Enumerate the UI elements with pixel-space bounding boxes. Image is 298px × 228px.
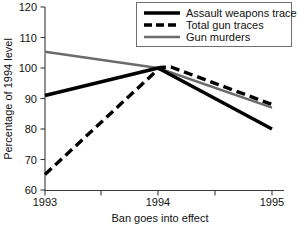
x-tick-label: 1995 [260, 196, 284, 208]
chart-legend: Assault weapons traces Total gun traces … [137, 3, 298, 47]
legend-label: Gun murders [186, 31, 251, 43]
series-line-total-gun-traces [45, 67, 272, 175]
x-tick-labels: 1993 1994 1995 [33, 196, 284, 208]
y-tick-label: 70 [25, 154, 37, 166]
y-tick-label: 90 [25, 93, 37, 105]
y-tick-labels: 120 110 100 90 80 70 60 [19, 1, 37, 196]
y-tick-marks [41, 7, 46, 190]
y-tick-label: 60 [25, 184, 37, 196]
legend-label: Total gun traces [186, 19, 264, 31]
y-tick-label: 100 [19, 62, 37, 74]
chart-container: Percentage of 1994 level 120 110 100 90 … [0, 0, 297, 228]
x-tick-label: 1993 [33, 196, 57, 208]
legend-label: Assault weapons traces [186, 7, 297, 19]
series-line-assault-weapons-traces [45, 68, 272, 129]
y-tick-label: 80 [25, 123, 37, 135]
y-tick-label: 120 [19, 1, 37, 13]
series-line-gun-murders [45, 52, 272, 108]
x-tick-label: 1994 [146, 196, 170, 208]
x-tick-marks [45, 191, 272, 196]
line-chart: Percentage of 1994 level 120 110 100 90 … [0, 0, 297, 228]
y-axis-label: Percentage of 1994 level [2, 38, 14, 160]
y-tick-label: 110 [19, 32, 37, 44]
x-axis-label: Ban goes into effect [111, 212, 208, 224]
